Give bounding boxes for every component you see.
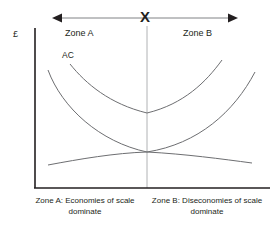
arrow-head-left-icon [52, 14, 62, 23]
zone-a-label: Zone A [65, 28, 94, 39]
ac-curve-label: AC [62, 50, 74, 60]
arrow-head-right-icon [228, 14, 238, 23]
ac-curve-outer [48, 70, 255, 152]
zone-divider-marker: X [140, 8, 150, 26]
y-axis-label: £ [13, 29, 18, 40]
caption-zone-a: Zone A: Economies of scale dominate [24, 196, 146, 218]
caption-zone-b: Zone B: Diseconomies of scale dominate [148, 196, 266, 218]
zone-b-label: Zone B [183, 28, 212, 39]
ac-curve-inner [70, 60, 222, 113]
economies-of-scale-diagram: £ X Zone A Zone B AC Zone A: Economies o… [0, 0, 276, 233]
falling-cost-line [48, 152, 252, 165]
